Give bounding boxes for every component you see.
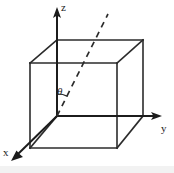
x-axis-label: x — [3, 147, 9, 158]
cube-edge-depth-top-right — [117, 40, 143, 63]
coordinate-axes — [11, 7, 162, 161]
bottom-margin-strip — [0, 166, 174, 173]
cube-edge-depth-bottom-right — [117, 116, 143, 148]
y-axis-label: y — [161, 123, 167, 134]
z-axis — [53, 7, 61, 116]
z-axis-label: z — [61, 2, 66, 13]
cube-edge-depth-top-left — [30, 40, 57, 63]
y-axis — [57, 112, 162, 120]
direction-ray-dashed — [57, 14, 108, 116]
cube-front-face — [30, 63, 117, 148]
cube-angle-figure: z y x θ — [0, 0, 174, 173]
figure-canvas — [0, 0, 174, 173]
theta-angle-label: θ — [57, 86, 62, 97]
x-axis — [11, 116, 57, 161]
